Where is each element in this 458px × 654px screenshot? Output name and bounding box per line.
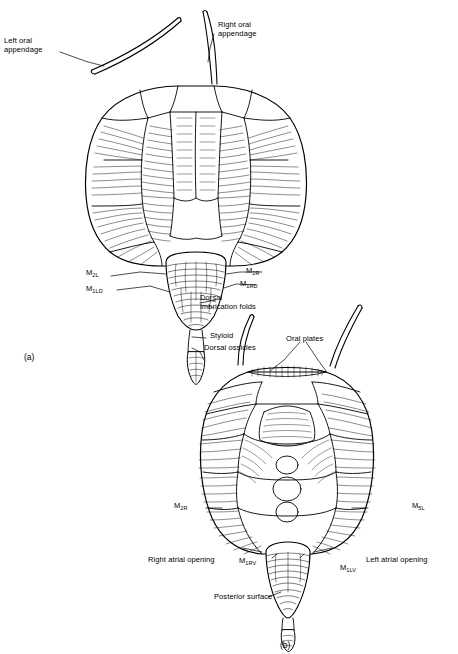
panel-label-a: (a) <box>24 352 34 362</box>
label-m2r-b: M2R <box>174 501 188 511</box>
panel-a-drawing <box>86 11 307 385</box>
label-m2l: M2L <box>86 268 99 278</box>
label-m1lv: M1LV <box>340 563 356 573</box>
panel-label-b: (b) <box>280 640 290 650</box>
label-m2r: M2R <box>246 266 260 276</box>
label-dorsal-ossicles: Dorsal ossicles <box>204 343 256 352</box>
label-m5l: M5L <box>412 501 425 511</box>
label-left-oral-appendage: Left oral appendage <box>4 36 56 54</box>
label-m1rv: M1RV <box>239 556 256 566</box>
panel-a-leaders <box>60 34 262 360</box>
label-m1ld: M1LD <box>86 284 103 294</box>
label-posterior-surface: Posterior surface <box>214 592 272 601</box>
label-right-oral-appendage: Right oral appendage <box>218 20 280 38</box>
label-left-atrial-opening: Left atrial opening <box>366 555 428 564</box>
label-dorsal-imbrication-folds: Dorsal imbrication folds <box>200 293 272 311</box>
label-styloid: Styloid <box>210 331 233 340</box>
label-oral-plates: Oral plates <box>286 334 323 343</box>
figure-container: Left oral appendage Right oral appendage… <box>0 0 458 654</box>
label-m1rd: M1RD <box>240 279 258 289</box>
label-right-atrial-opening: Right atrial opening <box>148 555 215 564</box>
